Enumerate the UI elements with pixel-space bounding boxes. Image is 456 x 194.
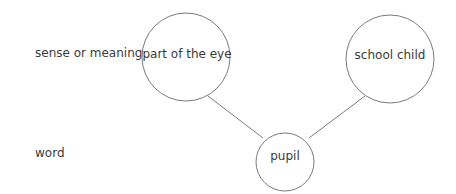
edge-pupil-school-child — [309, 96, 365, 138]
diagram-canvas — [0, 0, 456, 194]
edge-pupil-part-of-the-eye — [208, 96, 263, 138]
node-label-part-of-the-eye: part of the eye — [142, 47, 231, 61]
node-label-school-child: school child — [355, 48, 426, 62]
node-label-pupil: pupil — [270, 149, 300, 163]
row-label-word: word — [35, 146, 65, 160]
row-label-sense: sense or meaning — [35, 46, 142, 60]
